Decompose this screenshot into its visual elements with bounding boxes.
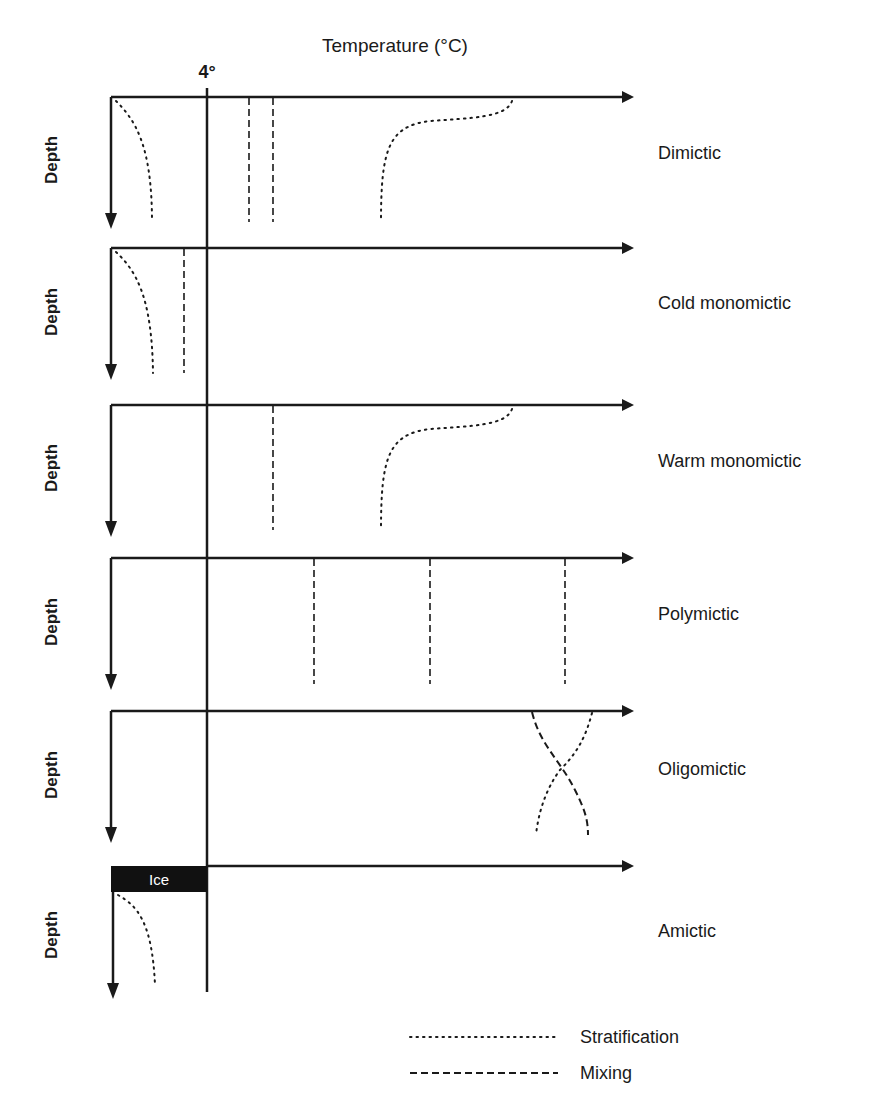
x-axis-arrow-icon [622, 399, 634, 411]
stratification-profile [116, 101, 152, 222]
stratification-profile [536, 713, 592, 835]
depth-axis-arrow-icon [105, 364, 117, 380]
legend: Stratification Mixing [410, 1027, 679, 1083]
x-axis-arrow-icon [622, 705, 634, 717]
reference-4-degree-label: 4° [198, 62, 215, 82]
stratification-profile [116, 252, 153, 373]
x-axis-arrow-icon [622, 242, 634, 254]
axis-title: Temperature (°C) [322, 35, 468, 56]
panel-dimictic: Depth Dimictic [42, 91, 721, 229]
depth-axis-arrow-icon [105, 674, 117, 690]
stratification-profile [381, 409, 512, 530]
depth-label: Depth [42, 288, 61, 336]
panel-label: Amictic [658, 921, 716, 941]
depth-axis-arrow-icon [105, 827, 117, 843]
legend-mixing-label: Mixing [580, 1063, 632, 1083]
panel-label: Oligomictic [658, 759, 746, 779]
depth-label: Depth [42, 136, 61, 184]
ice-label: Ice [149, 871, 169, 888]
depth-label: Depth [42, 751, 61, 799]
x-axis-arrow-icon [622, 91, 634, 103]
x-axis-arrow-icon [622, 860, 634, 872]
panel-polymictic: Depth Polymictic [42, 552, 739, 690]
mixing-profile [532, 712, 588, 835]
depth-label: Depth [42, 911, 61, 959]
depth-axis-arrow-icon [105, 521, 117, 537]
panel-label: Cold monomictic [658, 293, 791, 313]
panel-label: Dimictic [658, 143, 721, 163]
panel-cold-monomictic: Depth Cold monomictic [42, 242, 791, 380]
panel-label: Warm monomictic [658, 451, 801, 471]
panel-oligomictic: Depth Oligomictic [42, 705, 746, 843]
legend-stratification-label: Stratification [580, 1027, 679, 1047]
panel-label: Polymictic [658, 604, 739, 624]
depth-label: Depth [42, 444, 61, 492]
depth-axis-arrow-icon [105, 213, 117, 229]
limnology-mixing-diagram: Temperature (°C) 4° Depth Dimictic Depth… [0, 0, 870, 1109]
stratification-profile [381, 101, 512, 222]
stratification-profile [118, 895, 155, 985]
depth-axis-arrow-icon [107, 983, 119, 999]
depth-label: Depth [42, 598, 61, 646]
x-axis-arrow-icon [622, 552, 634, 564]
panel-amictic: Ice Depth Amictic [42, 860, 716, 999]
panel-warm-monomictic: Depth Warm monomictic [42, 399, 801, 537]
